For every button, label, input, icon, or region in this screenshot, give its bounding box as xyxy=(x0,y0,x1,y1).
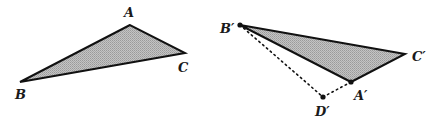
label-a: A xyxy=(122,5,134,20)
triangle-prime-shape xyxy=(240,25,405,82)
label-b: B xyxy=(14,87,26,102)
point-b-prime xyxy=(237,22,242,27)
triangle-abc: A C B xyxy=(14,5,189,102)
label-b-prime: B′ xyxy=(219,21,235,36)
label-d-prime: D′ xyxy=(314,104,330,119)
label-a-prime: A′ xyxy=(352,88,368,103)
label-c: C xyxy=(178,60,189,75)
point-d-prime xyxy=(320,94,325,99)
label-c-prime: C′ xyxy=(412,49,426,64)
triangle-abc-shape xyxy=(20,25,185,82)
geometry-figure: A C B B′ C′ A′ D′ xyxy=(0,0,438,119)
triangle-a-prime-b-prime-c-prime: B′ C′ A′ D′ xyxy=(219,21,426,119)
point-a-prime xyxy=(348,79,353,84)
